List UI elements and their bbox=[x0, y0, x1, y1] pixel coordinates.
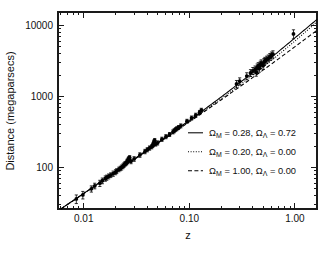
data-point bbox=[74, 197, 78, 201]
x-tick-labels: 0.010.101.00 bbox=[74, 213, 305, 224]
data-point bbox=[160, 137, 164, 141]
plot-frame bbox=[58, 12, 317, 209]
y-tick-label: 1000 bbox=[31, 91, 54, 102]
data-point bbox=[138, 153, 142, 157]
x-axis-title: z bbox=[185, 229, 191, 241]
hubble-diagram-figure: 0.010.101.00 100100010000 ΩM = 0.28, ΩΛ … bbox=[0, 0, 331, 256]
y-tick-label: 100 bbox=[36, 162, 53, 173]
y-tick-label: 10000 bbox=[25, 20, 53, 31]
x-tick-label: 0.01 bbox=[74, 213, 94, 224]
data-point bbox=[156, 141, 160, 145]
x-axis-ticks bbox=[60, 12, 295, 209]
data-point bbox=[199, 108, 203, 112]
data-point bbox=[235, 82, 239, 86]
legend-label-2: ΩM = 1.00, ΩΛ = 0.00 bbox=[209, 166, 296, 177]
x-tick-label: 1.00 bbox=[285, 213, 305, 224]
legend: ΩM = 0.28, ΩΛ = 0.72ΩM = 0.20, ΩΛ = 0.00… bbox=[188, 128, 296, 177]
data-point bbox=[194, 113, 198, 117]
data-point bbox=[238, 79, 242, 83]
y-tick-labels: 100100010000 bbox=[25, 20, 53, 173]
data-point bbox=[292, 32, 296, 36]
data-point bbox=[168, 133, 172, 137]
data-points bbox=[74, 30, 295, 204]
y-axis-title: Distance (megaparsecs) bbox=[4, 51, 16, 170]
axes-frame bbox=[58, 12, 317, 209]
data-point bbox=[129, 159, 133, 163]
plot-canvas: 0.010.101.00 100100010000 ΩM = 0.28, ΩΛ … bbox=[0, 0, 331, 256]
legend-label-1: ΩM = 0.20, ΩΛ = 0.00 bbox=[209, 147, 296, 158]
data-point bbox=[190, 116, 194, 120]
legend-label-0: ΩM = 0.28, ΩΛ = 0.72 bbox=[209, 128, 296, 139]
data-point bbox=[179, 124, 183, 128]
data-point bbox=[245, 74, 249, 78]
model-curve-1 bbox=[61, 22, 317, 209]
data-point bbox=[271, 52, 275, 56]
data-point bbox=[81, 193, 85, 197]
data-point bbox=[185, 119, 189, 123]
data-point bbox=[164, 135, 168, 139]
x-tick-label: 0.10 bbox=[180, 213, 200, 224]
data-point bbox=[132, 157, 136, 161]
data-point bbox=[93, 184, 97, 188]
data-point bbox=[89, 187, 93, 191]
